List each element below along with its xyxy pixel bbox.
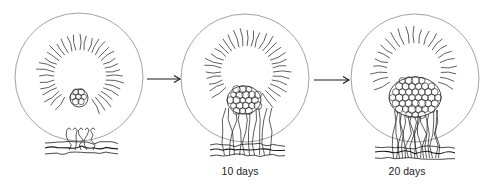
stage-2-panel bbox=[181, 14, 309, 157]
cell-cluster bbox=[70, 89, 88, 107]
outer-membrane-circle bbox=[181, 14, 309, 142]
substrate-lines bbox=[45, 141, 118, 154]
diagram-canvas: 10 days 20 days bbox=[0, 0, 493, 184]
stage-2-label: 10 days bbox=[222, 166, 259, 177]
outer-membrane-circle bbox=[15, 13, 143, 141]
substrate-lines bbox=[210, 143, 285, 156]
progression-arrow-2 bbox=[314, 77, 349, 84]
stage-3-panel bbox=[351, 14, 479, 159]
cell-cluster bbox=[389, 76, 441, 118]
cell-cluster bbox=[227, 86, 262, 115]
stage-1-panel bbox=[15, 13, 143, 154]
diagram-svg bbox=[0, 0, 493, 184]
stage-3-label: 20 days bbox=[389, 166, 426, 177]
progression-arrow-1 bbox=[147, 76, 180, 83]
hyphae bbox=[222, 108, 272, 155]
